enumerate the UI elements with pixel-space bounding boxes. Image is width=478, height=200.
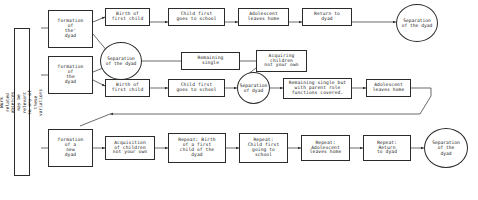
node-adolescent-leaves-home-1[interactable]: Adolescent leaves home (238, 8, 289, 26)
node-child-first-goes-to-school-2[interactable]: Child first goes to school (168, 79, 225, 97)
node-separation-of-the-dyad-1[interactable]: Separation of the dyad (396, 4, 438, 42)
node-birth-of-first-child-2[interactable]: Birth of first child (105, 79, 150, 97)
node-adolescent-leaves-home-2[interactable]: Adolescent leaves home (366, 79, 411, 97)
node-repeat-child-first-going-to-school[interactable]: Repeat: Child first going to school (239, 133, 288, 163)
node-acquisition-of-children-not-your-own[interactable]: Acquisition of children not your own (105, 136, 155, 160)
node-acquiring-children-not-your-own[interactable]: Acquiring children not your own (256, 50, 307, 72)
node-separation-of-the-dyad-3[interactable]: Separation of the dyad (424, 128, 468, 168)
node-formation-of-the-dyad-a[interactable]: formation of the' dyad (48, 10, 93, 48)
node-separation-of-the-dyad-2[interactable]: Separation of the dyad (100, 42, 142, 80)
node-birth-of-first-child-1[interactable]: Birth of first child (105, 8, 150, 26)
node-repeat-return-to-dyad[interactable]: Repeat: Return to dyad (363, 135, 411, 161)
side-note-box: Work related absences may be relevant to… (14, 28, 30, 176)
node-return-to-dyad-1[interactable]: Return to dyad (302, 8, 352, 26)
side-note-text: Work related absences may be relevant to… (0, 88, 45, 115)
node-remaining-single[interactable]: Remaining single (181, 52, 240, 70)
node-formation-of-the-dyad-b[interactable]: formation of the dyad (48, 56, 93, 94)
node-separation-of-dyad-3[interactable]: Separation of dyad (237, 72, 270, 104)
diagram-canvas: Work related absences may be relevant to… (0, 0, 478, 200)
node-repeat-birth-of-first-child[interactable]: Repeat: Birth of a first child of the dy… (168, 133, 226, 163)
node-formation-of-a-new-dyad[interactable]: formation of a new dyad (48, 129, 93, 167)
node-remaining-single-parent-role[interactable]: Remaining single but with parent role fu… (283, 78, 352, 99)
node-child-first-goes-to-school-1[interactable]: Child first goes to school (168, 8, 225, 26)
node-repeat-adolescent-leaves-home[interactable]: Repeat: Adolescent leaves home (301, 135, 350, 161)
